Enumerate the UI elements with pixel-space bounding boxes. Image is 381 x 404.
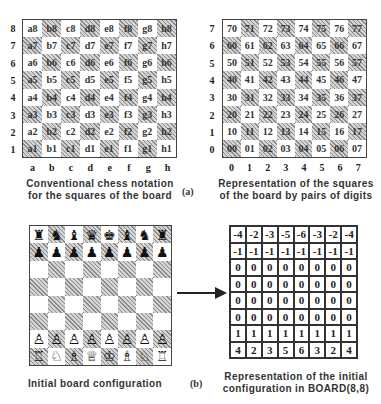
chess-piece-icon: ♖ xyxy=(33,349,46,363)
caption-line-2: of the board by pairs of digits xyxy=(210,190,381,202)
board-square xyxy=(153,278,171,295)
board-square: 52 xyxy=(259,54,277,71)
matrix-cell: 0 xyxy=(341,259,357,276)
board-square: h1 xyxy=(157,140,176,157)
matrix-cell: -1 xyxy=(278,243,294,260)
board-square: a2 xyxy=(23,123,42,140)
board-square: 34 xyxy=(295,89,313,106)
board-square: ♙ xyxy=(65,330,83,347)
board-square: b1 xyxy=(42,140,61,157)
board-square: a5 xyxy=(23,71,42,88)
board-square: d6 xyxy=(80,54,99,71)
chess-piece-icon: ♙ xyxy=(33,332,46,346)
board-square: h8 xyxy=(157,20,176,37)
board-square: 03 xyxy=(277,140,295,157)
board-square: a8 xyxy=(23,20,42,37)
file-label: 7 xyxy=(350,162,367,173)
matrix-cell: -1 xyxy=(341,243,357,260)
board-square: ♖ xyxy=(153,348,171,365)
board-square: 40 xyxy=(223,71,241,88)
file-label: 1 xyxy=(241,162,258,173)
rank-label: 2 xyxy=(8,127,18,138)
chess-piece-icon: ♟ xyxy=(85,245,98,259)
matrix-cell: 2 xyxy=(246,342,262,359)
board-square: 61 xyxy=(241,37,259,54)
board-square: f2 xyxy=(119,123,138,140)
board-square: 67 xyxy=(348,37,366,54)
board-square: ♗ xyxy=(118,348,136,365)
board-square: d7 xyxy=(80,37,99,54)
board-square: 21 xyxy=(241,106,259,123)
board-square xyxy=(30,296,48,313)
board-square: a3 xyxy=(23,106,42,123)
chess-piece-icon: ♙ xyxy=(68,332,81,346)
matrix-cell: 1 xyxy=(309,325,325,342)
chess-piece-icon: ♟ xyxy=(68,245,81,259)
board-square: c2 xyxy=(61,123,80,140)
file-label: 3 xyxy=(277,162,294,173)
board-square: ♟ xyxy=(83,243,101,260)
rank-label: 3 xyxy=(8,110,18,121)
board-square: 57 xyxy=(348,54,366,71)
file-label: b xyxy=(43,162,60,173)
chess-piece-icon: ♗ xyxy=(68,349,81,363)
board-square: a1 xyxy=(23,140,42,157)
board-square xyxy=(83,278,101,295)
matrix-cell: 0 xyxy=(246,276,262,293)
matrix-cell: 0 xyxy=(325,259,341,276)
board-square: 65 xyxy=(312,37,330,54)
file-label: 5 xyxy=(314,162,331,173)
matrix-cell: 0 xyxy=(246,292,262,309)
chess-piece-icon: ♟ xyxy=(156,245,169,259)
board-square: e6 xyxy=(100,54,119,71)
board-square: ♚ xyxy=(101,226,119,243)
board-square: 76 xyxy=(330,20,348,37)
board-square: b4 xyxy=(42,89,61,106)
matrix-cell: 0 xyxy=(325,309,341,326)
chess-piece-icon: ♙ xyxy=(156,332,169,346)
board-square: ♞ xyxy=(136,226,154,243)
board-square: b5 xyxy=(42,71,61,88)
chess-piece-icon: ♙ xyxy=(103,332,116,346)
rank-label: 7 xyxy=(8,40,18,51)
rank-label: 1 xyxy=(207,127,217,138)
file-label: g xyxy=(140,162,157,173)
file-label: f xyxy=(121,162,138,173)
board-square: ♗ xyxy=(65,348,83,365)
board-square: ♖ xyxy=(30,348,48,365)
board-square xyxy=(101,296,119,313)
digit-board: 7071727374757677606162636465666750515253… xyxy=(222,19,367,158)
board-square: g1 xyxy=(138,140,157,157)
board-matrix: -4-2-3-5-6-3-2-4-1-1-1-1-1-1-1-100000000… xyxy=(229,225,358,359)
board-square: ♞ xyxy=(48,226,66,243)
board-square: 72 xyxy=(259,20,277,37)
rank-label: 6 xyxy=(207,40,217,51)
board-square: ♘ xyxy=(48,348,66,365)
board-square: ♟ xyxy=(153,243,171,260)
board-square: c7 xyxy=(61,37,80,54)
board-square: ♟ xyxy=(48,243,66,260)
notation-caption: Conventional chess notation for the squa… xyxy=(10,178,190,202)
board-square: 06 xyxy=(330,140,348,157)
matrix-cell: 1 xyxy=(294,325,310,342)
board-square: 60 xyxy=(223,37,241,54)
file-label: c xyxy=(63,162,80,173)
rank-label: 3 xyxy=(207,92,217,103)
board-square: ♙ xyxy=(136,330,154,347)
matrix-cell: 0 xyxy=(262,259,278,276)
matrix-cell: -1 xyxy=(246,243,262,260)
chess-piece-icon: ♜ xyxy=(33,228,46,242)
board-square: c6 xyxy=(61,54,80,71)
file-label: a xyxy=(24,162,41,173)
board-square: ♙ xyxy=(30,330,48,347)
board-square xyxy=(101,278,119,295)
board-square xyxy=(48,296,66,313)
matrix-cell: 0 xyxy=(278,259,294,276)
matrix-cell: 0 xyxy=(230,309,246,326)
board-square: 73 xyxy=(277,20,295,37)
matrix-cell: 0 xyxy=(341,292,357,309)
matrix-cell: -3 xyxy=(262,226,278,243)
board-square: e4 xyxy=(100,89,119,106)
board-square: h6 xyxy=(157,54,176,71)
board-square xyxy=(153,261,171,278)
